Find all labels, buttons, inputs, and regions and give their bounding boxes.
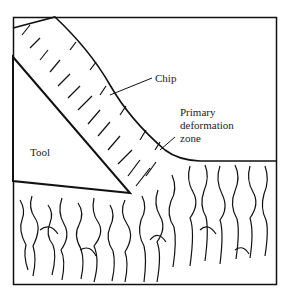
chip-leader-line <box>110 78 152 95</box>
zone-label-3: zone <box>180 132 201 144</box>
chip-label: Chip <box>155 72 176 84</box>
zone-label-2: deformation <box>180 119 234 131</box>
zone-leader-line <box>160 137 175 150</box>
tool-shape <box>13 57 130 193</box>
zone-label-1: Primary <box>180 106 215 118</box>
tool-label: Tool <box>30 146 50 158</box>
